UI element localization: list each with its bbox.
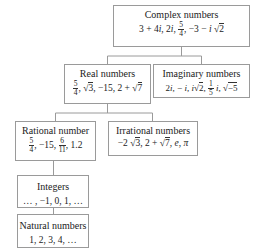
irrational-numbers-node: Irrational numbers −2 √3, 2 + √7, e, π [108, 121, 198, 156]
natural-numbers-examples: 1, 2, 3, 4, … [18, 234, 88, 246]
real-numbers-examples: 54, √3, −15, 2 + √7 [65, 80, 150, 97]
rational-number-examples: 54, −15, 611, 1.2 [16, 137, 95, 154]
complex-numbers-examples: 3 + 4i, 2i, 54, −3 − i √2 [114, 21, 249, 38]
complex-numbers-node: Complex numbers 3 + 4i, 2i, 54, −3 − i √… [113, 5, 250, 47]
imaginary-numbers-examples: 2i, − i, i√2, 15 i, √−5 [154, 80, 249, 97]
irrational-numbers-title: Irrational numbers [109, 125, 197, 137]
rational-number-title: Rational number [16, 125, 95, 137]
imaginary-numbers-title: Imaginary numbers [154, 68, 249, 80]
integers-node: Integers … , −1, 0, 1, … [17, 175, 89, 208]
irrational-numbers-examples: −2 √3, 2 + √7, e, π [109, 137, 197, 149]
rational-number-node: Rational number 54, −15, 611, 1.2 [15, 121, 96, 161]
natural-numbers-node: Natural numbers 1, 2, 3, 4, … [17, 214, 89, 248]
real-numbers-title: Real numbers [65, 68, 150, 80]
imaginary-numbers-node: Imaginary numbers 2i, − i, i√2, 15 i, √−… [153, 64, 250, 98]
integers-title: Integers [18, 181, 88, 193]
real-numbers-node: Real numbers 54, √3, −15, 2 + √7 [64, 64, 151, 104]
integers-examples: … , −1, 0, 1, … [18, 195, 88, 207]
natural-numbers-title: Natural numbers [18, 220, 88, 232]
